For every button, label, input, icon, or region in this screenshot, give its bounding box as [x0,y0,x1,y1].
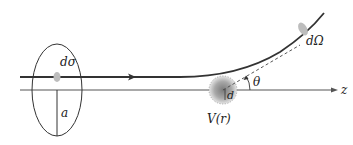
d-sigma-label: dσ [60,55,77,69]
axis-label-z: z [340,83,348,97]
asymptote-dashed-line [223,45,300,90]
scattering-diagram: z a d θ dσ dΩ V(r) [0,0,353,145]
potential-label: V(r) [207,112,231,126]
impact-parameter-label: a [61,106,68,120]
range-label: d [227,89,234,102]
d-omega-label: dΩ [306,34,324,48]
theta-label: θ [253,75,261,89]
z-axis [20,88,338,93]
d-sigma-blob [54,72,61,82]
z-axis-arrowhead-icon [331,88,338,93]
